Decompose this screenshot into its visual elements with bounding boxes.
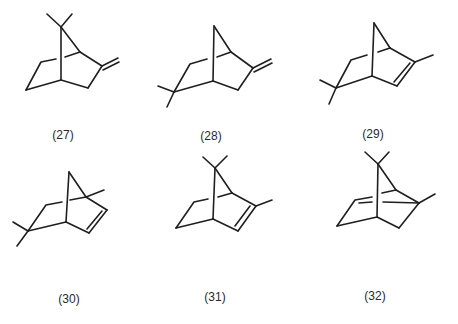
compound-label-29: (29) xyxy=(362,127,383,141)
structures-canvas xyxy=(0,0,458,324)
structure-27 xyxy=(26,14,119,90)
structure-28 xyxy=(158,26,272,107)
structure-31 xyxy=(176,156,272,231)
compound-label-28: (28) xyxy=(200,129,221,143)
compound-label-32: (32) xyxy=(364,289,385,303)
compound-label-30: (30) xyxy=(58,292,79,306)
structure-30 xyxy=(13,172,107,246)
compound-label-31: (31) xyxy=(204,290,225,304)
structure-29 xyxy=(320,23,433,104)
compound-label-27: (27) xyxy=(52,128,73,142)
structure-32 xyxy=(337,152,435,228)
